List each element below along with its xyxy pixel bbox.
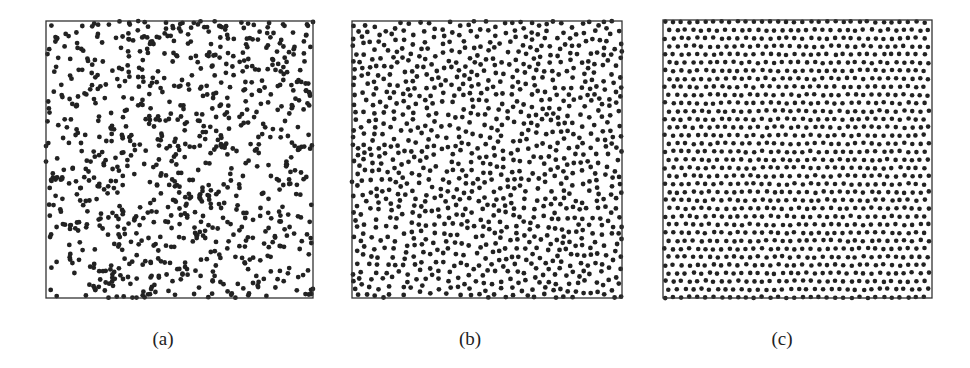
scatter-panel-blue-noise (349, 18, 625, 301)
panel-caption-b: (b) (440, 328, 500, 350)
scatter-panel-lattice (660, 17, 935, 301)
data-points (44, 19, 316, 300)
panel-caption-a: (a) (133, 328, 193, 350)
panel-caption-c: (c) (752, 328, 812, 350)
data-points (662, 19, 931, 301)
scatter-panel-random (43, 18, 316, 301)
data-points (350, 19, 625, 300)
